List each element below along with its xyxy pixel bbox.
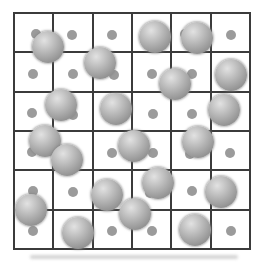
small-atom	[187, 186, 197, 196]
scan-artifact	[30, 255, 238, 259]
small-atom	[107, 226, 117, 236]
large-atom	[51, 144, 83, 176]
small-atom	[225, 148, 235, 158]
large-atom	[32, 31, 64, 63]
large-atom	[182, 126, 214, 158]
small-atom	[67, 30, 77, 40]
small-atom	[147, 69, 157, 79]
small-atom	[226, 30, 236, 40]
large-atom	[15, 194, 47, 226]
lattice-diagram	[0, 0, 265, 268]
large-atom	[100, 93, 132, 125]
grid-line-horizontal	[13, 248, 251, 250]
grid-line-horizontal	[13, 91, 251, 93]
small-atom	[28, 226, 38, 236]
grid-line-horizontal	[13, 169, 251, 171]
large-atom	[142, 167, 174, 199]
small-atom	[226, 226, 236, 236]
large-atom	[181, 22, 213, 54]
large-atom	[118, 130, 150, 162]
large-atom	[62, 217, 94, 249]
large-atom	[179, 214, 211, 246]
grid-line-horizontal	[13, 12, 251, 14]
large-atom	[205, 176, 237, 208]
large-atom	[84, 47, 116, 79]
small-atom	[68, 69, 78, 79]
small-atom	[27, 108, 37, 118]
large-atom	[215, 59, 247, 91]
large-atom	[91, 179, 123, 211]
large-atom	[139, 21, 171, 53]
large-atom	[159, 68, 191, 100]
small-atom	[187, 109, 197, 119]
small-atom	[107, 148, 117, 158]
small-atom	[107, 30, 117, 40]
large-atom	[45, 89, 77, 121]
small-atom	[147, 226, 157, 236]
large-atom	[119, 198, 151, 230]
small-atom	[148, 109, 158, 119]
large-atom	[208, 94, 240, 126]
small-atom	[68, 187, 78, 197]
small-atom	[28, 69, 38, 79]
